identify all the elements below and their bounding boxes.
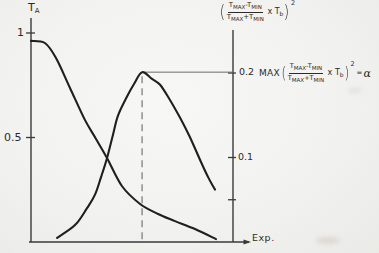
exponent-2: 2 — [350, 61, 354, 68]
fraction-numerator: TMAX-TMIN — [289, 63, 323, 74]
fraction-numerator: TMAX-TMIN — [228, 2, 263, 13]
open-paren: ( — [282, 66, 287, 81]
max-function: MAX — [259, 69, 280, 78]
open-paren: ( — [220, 4, 225, 21]
fraction-denominator: TMAX+TMIN — [227, 13, 264, 23]
max-alpha-formula: MAX ( TMAX-TMIN TMAX+TMIN x Tb ) 2 = α — [259, 63, 371, 83]
left-axis-title-main: T — [28, 1, 35, 14]
fraction-denominator: TMAX+TMIN — [288, 74, 324, 84]
exponent-2: 2 — [291, 0, 295, 7]
close-paren: ) — [284, 4, 289, 21]
equals-sign: = — [357, 70, 363, 77]
figure-tonal-transfer-chart: TA 1 0.5 0.2 0.1 Exp. ( TMAX-TMIN TMAX+T… — [0, 0, 379, 253]
right-tick-label-0-1: 0.1 — [238, 151, 253, 162]
left-tick-label-1: 1 — [17, 26, 24, 39]
ta-curve — [31, 41, 216, 239]
times-tb: x Tb — [265, 8, 284, 17]
left-tick-label-0-5: 0.5 — [4, 131, 22, 144]
fraction: TMAX-TMIN TMAX+TMIN — [288, 63, 324, 83]
fraction: TMAX-TMIN TMAX+TMIN — [227, 2, 264, 22]
left-axis-title-sub: A — [35, 7, 40, 15]
close-paren: ) — [344, 66, 349, 81]
plot-canvas — [0, 0, 379, 253]
left-axis-title: TA — [28, 1, 40, 15]
right-axis-title-formula: ( TMAX-TMIN TMAX+TMIN x Tb ) 2 — [219, 2, 295, 22]
squared-term-curve — [57, 72, 215, 238]
alpha-symbol: α — [363, 68, 370, 79]
x-axis-label: Exp. — [252, 232, 275, 243]
x-axis-arrowhead — [244, 240, 252, 245]
times-tb: x Tb — [325, 69, 344, 78]
right-tick-label-0-2: 0.2 — [239, 66, 254, 77]
